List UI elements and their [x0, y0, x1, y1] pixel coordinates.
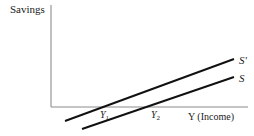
series-label-s: S — [239, 73, 245, 84]
x-tick-label-y2-base: Y — [151, 109, 157, 120]
x-tick-label-y2-subscript: 2 — [157, 114, 161, 122]
x-tick-label-y2: Y2 — [151, 110, 160, 120]
x-tick-label-y1-base: Y — [100, 109, 106, 120]
x-tick-label-y1: Y1 — [100, 110, 109, 120]
x-tick-label-y1-subscript: 1 — [106, 114, 110, 122]
x-axis-label: Y (Income) — [188, 112, 234, 122]
series-label-s-prime: S' — [239, 55, 247, 66]
savings-function-chart: Savings Y (Income) S' S Y1 Y2 — [0, 0, 254, 136]
y-axis-label: Savings — [10, 4, 45, 15]
